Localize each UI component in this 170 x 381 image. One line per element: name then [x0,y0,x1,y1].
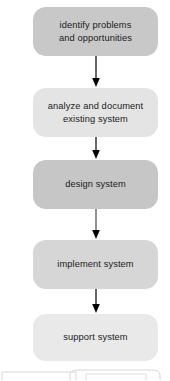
flow-arrow-4 [90,289,102,314]
cutoff-shapes-bottom [0,366,170,381]
flow-node-analyze-document-existing-system[interactable]: analyze and document existing system [33,88,158,137]
flow-node-implement-system[interactable]: implement system [33,240,158,289]
flow-node-identify-problems[interactable]: identify problems and opportunities [33,7,158,56]
flow-node-label: analyze and document existing system [48,100,143,125]
flow-node-label: design system [65,178,126,190]
flowchart-diagram: identify problems and opportunities anal… [0,0,170,381]
flow-node-label: implement system [57,258,133,270]
flow-node-support-system[interactable]: support system [33,314,158,361]
flow-arrow-2 [90,137,102,160]
flow-node-label: identify problems and opportunities [59,19,132,44]
flow-node-label: support system [63,331,127,343]
flow-arrow-3 [90,209,102,240]
flow-node-design-system[interactable]: design system [33,160,158,209]
flow-arrow-1 [90,56,102,88]
